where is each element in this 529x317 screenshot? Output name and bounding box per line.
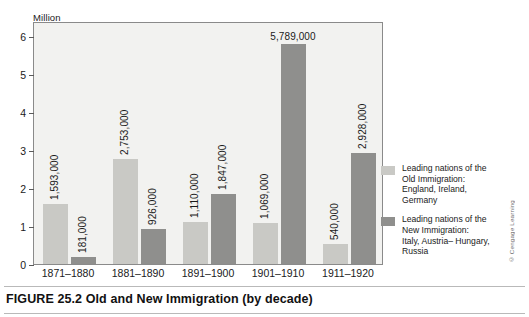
legend-line: Leading nations of the — [402, 163, 529, 174]
bar-new: 2,928,000 — [351, 153, 376, 264]
y-axis-tick-label: 2 — [4, 184, 26, 194]
y-axis-tick-label: 6 — [4, 32, 26, 42]
x-axis-tick-label: 1871–1880 — [33, 267, 103, 279]
bar-value-label: 1,069,000 — [259, 174, 270, 219]
x-axis-tick-label: 1881–1890 — [103, 267, 173, 279]
bar-new: 181,000 — [71, 257, 96, 264]
y-axis-tick-label: 1 — [4, 222, 26, 232]
bar-new: 1,847,000 — [211, 194, 236, 264]
legend-line: England, Ireland, — [402, 184, 529, 195]
bar-old: 1,593,000 — [43, 204, 68, 264]
bar-group: 2,753,000926,000 — [104, 23, 174, 264]
legend-swatch-new — [381, 217, 395, 226]
legend-line: Old Immigration: — [402, 174, 529, 185]
y-axis-tick-label: 3 — [4, 146, 26, 156]
bar-value-label: 181,000 — [77, 216, 88, 253]
bar-group: 1,069,0005,789,000 — [244, 23, 314, 264]
x-axis-tick-label: 1891–1900 — [173, 267, 243, 279]
bar-value-label: 1,847,000 — [217, 144, 228, 189]
bar-value-label: 2,753,000 — [119, 110, 130, 155]
legend-item: Leading nations of theNew Immigration:It… — [381, 214, 529, 256]
plot-area: 0123456 1,593,000181,0002,753,000926,000… — [33, 22, 383, 265]
y-axis-tick-label: 0 — [4, 260, 26, 270]
figure-caption-title: Old and New Immigration (by decade) — [86, 292, 313, 306]
bar-old: 2,753,000 — [113, 159, 138, 264]
bar-value-label: 1,110,000 — [189, 173, 200, 218]
bar-group: 1,110,0001,847,000 — [174, 23, 244, 264]
bar-value-label: 1,593,000 — [49, 154, 60, 199]
bar-group: 1,593,000181,000 — [34, 23, 104, 264]
figure-caption-label: FIGURE 25.2 — [6, 292, 82, 306]
y-axis-tick-label: 5 — [4, 70, 26, 80]
bar-group: 540,0002,928,000 — [314, 23, 384, 264]
bar-new: 926,000 — [141, 229, 166, 264]
bar-value-label: 540,000 — [329, 203, 340, 240]
caption-rule-bottom — [4, 313, 525, 314]
bar-new: 5,789,000 — [281, 44, 306, 264]
bar-old: 1,110,000 — [183, 222, 208, 264]
x-axis-tick-label: 1911–1920 — [313, 267, 383, 279]
y-axis-tick — [29, 265, 34, 266]
copyright-credit: © Cengage Learning — [508, 200, 515, 263]
x-axis-tick-label: 1901–1910 — [243, 267, 313, 279]
bar-old: 540,000 — [323, 244, 348, 265]
figure-immigration-chart: Million 0123456 1,593,000181,0002,753,00… — [0, 0, 529, 317]
figure-caption: FIGURE 25.2 Old and New Immigration (by … — [6, 292, 313, 306]
caption-rule-top — [4, 286, 525, 287]
bar-old: 1,069,000 — [253, 223, 278, 264]
bar-value-label: 926,000 — [147, 188, 158, 225]
bar-value-label: 2,928,000 — [357, 103, 368, 148]
chart-legend: Leading nations of theOld Immigration:En… — [381, 163, 529, 266]
legend-item: Leading nations of theOld Immigration:En… — [381, 163, 529, 205]
y-axis-tick-label: 4 — [4, 108, 26, 118]
legend-swatch-old — [381, 166, 395, 175]
